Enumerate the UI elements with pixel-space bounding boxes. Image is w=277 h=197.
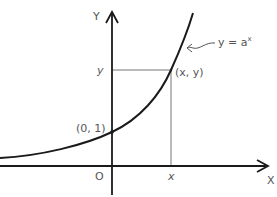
x-axis-label: X (267, 174, 275, 187)
point-marker-x-y (170, 69, 172, 71)
point-label-0-1: (0, 1) (76, 122, 106, 135)
x-tick-label: x (167, 170, 175, 183)
point-label-xy: (x, y) (175, 66, 204, 79)
y-axis-label: Y (92, 10, 100, 23)
equation-label: y = ax (218, 35, 252, 49)
y-tick-label: y (96, 64, 104, 77)
origin-label: O (95, 170, 104, 183)
exponential-graph: Y X O x y (x, y) (0, 1) y = ax (0, 0, 277, 197)
equation-pointer-arrow (187, 43, 215, 48)
equation-exponent: x (247, 35, 251, 43)
point-marker-0-1 (110, 130, 114, 134)
exponential-curve (0, 13, 193, 158)
equation-base: y = a (218, 36, 247, 49)
